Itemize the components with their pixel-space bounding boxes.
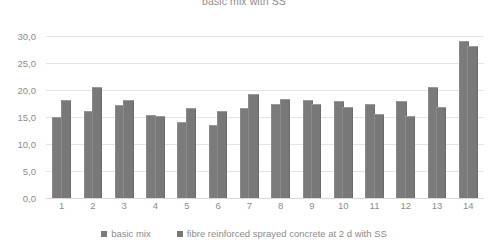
chart-title: basic mix with SS	[0, 0, 488, 7]
x-axis-tick-label: 6	[215, 200, 220, 211]
bar	[374, 114, 384, 198]
y-axis-tick-label: 20,0	[18, 85, 37, 96]
y-axis: 30,025,020,015,010,05,00,0	[0, 36, 42, 198]
x-axis-tick-label: 4	[153, 200, 158, 211]
legend-item[interactable]: basic mix	[101, 228, 151, 239]
bar	[405, 116, 415, 198]
x-axis-tick-label: 5	[184, 200, 189, 211]
y-axis-tick-label: 5,0	[23, 166, 36, 177]
y-axis-tick-label: 15,0	[18, 112, 37, 123]
y-axis-tick-label: 30,0	[18, 31, 37, 42]
legend-label: basic mix	[111, 228, 151, 239]
y-axis-tick-label: 10,0	[18, 139, 37, 150]
x-axis-tick-label: 12	[400, 200, 411, 211]
x-axis-tick-label: 11	[370, 200, 380, 211]
x-axis-tick-label: 1	[59, 200, 64, 211]
x-axis-tick-label: 2	[90, 200, 95, 211]
x-axis-tick-label: 14	[463, 200, 474, 211]
bar-group	[396, 36, 415, 198]
bar-group	[115, 36, 134, 198]
bar-group	[209, 36, 228, 198]
gridline	[46, 198, 484, 199]
bar	[92, 87, 102, 198]
bar-group	[428, 36, 447, 198]
bar-group	[240, 36, 259, 198]
x-axis-tick-label: 9	[309, 200, 314, 211]
x-axis-tick-label: 3	[122, 200, 127, 211]
bar-group	[177, 36, 196, 198]
x-axis-tick-label: 8	[278, 200, 283, 211]
bar	[467, 46, 477, 198]
bar	[155, 116, 165, 198]
chart-legend: basic mixfibre reinforced sprayed concre…	[0, 228, 488, 239]
x-axis-tick-label: 10	[338, 200, 349, 211]
bar	[61, 100, 71, 198]
bar	[436, 107, 446, 198]
legend-swatch-icon	[177, 231, 183, 237]
bar	[311, 104, 321, 198]
bar	[342, 107, 352, 198]
bar	[186, 108, 196, 198]
x-axis-tick-label: 13	[432, 200, 443, 211]
bar	[123, 100, 133, 198]
legend-swatch-icon	[101, 231, 107, 237]
bar-group	[146, 36, 165, 198]
bar	[280, 99, 290, 198]
bar	[217, 111, 227, 198]
bar-chart: basic mix with SS 30,025,020,015,010,05,…	[0, 0, 488, 244]
x-axis-tick-label: 7	[247, 200, 252, 211]
bar-group	[52, 36, 71, 198]
plot-area	[46, 36, 484, 198]
y-axis-tick-label: 0,0	[23, 193, 36, 204]
legend-label: fibre reinforced sprayed concrete at 2 d…	[187, 228, 387, 239]
x-axis: 1234567891011121314	[46, 200, 484, 216]
bar-group	[365, 36, 384, 198]
y-axis-tick-label: 25,0	[18, 58, 37, 69]
bars-layer	[46, 36, 484, 198]
bar-group	[459, 36, 478, 198]
bar-group	[334, 36, 353, 198]
bar-group	[271, 36, 290, 198]
legend-item[interactable]: fibre reinforced sprayed concrete at 2 d…	[177, 228, 387, 239]
bar-group	[84, 36, 103, 198]
bar	[248, 94, 258, 198]
bar-group	[303, 36, 322, 198]
